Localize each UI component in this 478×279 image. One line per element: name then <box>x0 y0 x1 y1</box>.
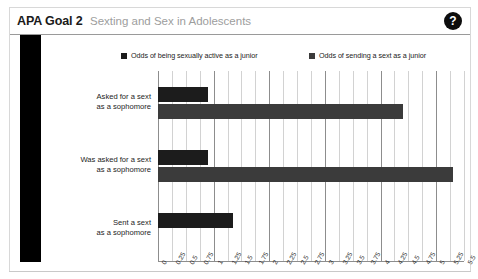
cut-off-top-strip <box>0 0 478 7</box>
category-axis-labels: Asked for a sextas a sophomoreWas asked … <box>43 71 155 261</box>
chart-legend: Odds of being sexually active as a junio… <box>41 51 472 65</box>
category-label: Was asked for a sextas a sophomore <box>80 155 151 175</box>
category-label-line: as a sophomore <box>97 228 151 238</box>
bar-series-container <box>158 71 464 261</box>
category-label-line: as a sophomore <box>97 102 151 112</box>
plot-area <box>158 71 464 261</box>
gridline <box>464 71 465 261</box>
bottom-rule <box>9 271 471 272</box>
legend-label: Odds of being sexually active as a junio… <box>131 51 258 60</box>
bar <box>158 167 453 182</box>
bar <box>158 87 208 102</box>
page-title: APA Goal 2 <box>17 14 83 28</box>
category-label: Asked for a sextas a sophomore <box>97 92 151 112</box>
page-subtitle: Sexting and Sex in Adolescents <box>90 15 251 27</box>
bar <box>158 104 403 119</box>
legend-entry-1: Odds of sending a sext as a junior <box>309 51 426 60</box>
category-label-line: Asked for a sext <box>97 92 151 102</box>
bar <box>158 213 233 228</box>
legend-entry-0: Odds of being sexually active as a junio… <box>121 51 258 60</box>
bar <box>158 150 208 165</box>
card-header: APA Goal 2 Sexting and Sex in Adolescent… <box>10 8 470 35</box>
category-label-line: Sent a sext <box>97 218 151 228</box>
help-icon[interactable]: ? <box>444 12 462 30</box>
legend-label: Odds of sending a sext as a junior <box>319 51 426 60</box>
category-label-line: as a sophomore <box>80 165 151 175</box>
chart-body: Odds of being sexually active as a junio… <box>10 35 472 272</box>
x-tick-label: 5.5 <box>466 254 477 265</box>
category-label: Sent a sextas a sophomore <box>97 218 151 238</box>
left-black-slab <box>20 35 41 262</box>
chart-card: APA Goal 2 Sexting and Sex in Adolescent… <box>9 7 471 272</box>
legend-swatch-icon <box>309 53 315 59</box>
legend-swatch-icon <box>121 53 127 59</box>
category-label-line: Was asked for a sext <box>80 155 151 165</box>
